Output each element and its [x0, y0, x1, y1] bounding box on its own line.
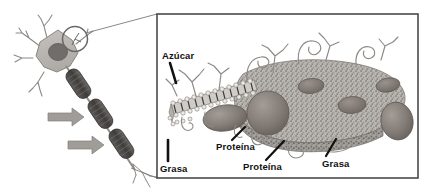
arrow-lower [68, 136, 104, 154]
label-grasa-right: Grasa [322, 158, 349, 169]
neuron-diagram [14, 15, 157, 187]
axon-terminals [133, 164, 157, 187]
label-proteina-1: Proteína [216, 141, 255, 152]
membrane-frame [157, 14, 418, 178]
leader-line-top [86, 14, 157, 33]
label-proteina-2: Proteína [243, 161, 282, 172]
protein-blob [247, 91, 289, 135]
arrow-upper [48, 108, 84, 126]
label-grasa-left: Grasa [160, 163, 187, 174]
label-azucar: Azúcar [162, 50, 194, 61]
figure-canvas [0, 0, 435, 195]
biology-figure: Azúcar Grasa Proteína Proteína Grasa [0, 0, 435, 195]
